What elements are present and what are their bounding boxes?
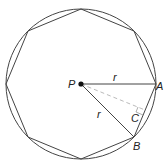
octagon-diagram: P A B C r r [0,0,167,161]
center-point [78,81,83,86]
label-c: C [131,112,139,124]
apothem-pc [81,84,145,110]
label-a: A [155,80,163,92]
label-r-top: r [113,71,118,83]
label-b: B [133,140,140,152]
label-p: P [68,78,76,90]
radius-pb [81,84,134,137]
diagram-canvas: P A B C r r [0,0,167,161]
label-r-diagonal: r [97,108,102,120]
